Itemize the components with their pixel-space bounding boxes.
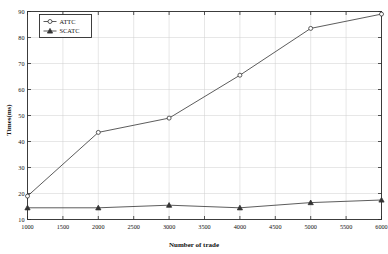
grid-lines (28, 12, 382, 220)
x-tick-label: 6000 (375, 223, 387, 230)
x-tick-label: 1000 (21, 223, 33, 230)
y-tick-label: 30 (18, 164, 24, 171)
x-axis-title: Number of trade (169, 241, 219, 249)
data-point-marker (96, 130, 100, 134)
data-point-marker (309, 26, 313, 30)
y-tick-label: 70 (18, 60, 24, 67)
y-tick-label: 60 (18, 86, 24, 93)
x-tick-label: 4500 (269, 223, 281, 230)
data-point-marker (238, 73, 242, 77)
x-tick-label: 1500 (57, 223, 69, 230)
y-tick-label: 20 (18, 190, 24, 197)
x-tick-label: 4000 (234, 223, 246, 230)
y-tick-label: 40 (18, 138, 24, 145)
data-point-marker (167, 116, 171, 120)
x-tick-label: 2000 (92, 223, 104, 230)
chart-legend: ATTCSCATC (40, 15, 92, 38)
y-tick-label: 80 (18, 34, 24, 41)
legend-label-scatc: SCATC (60, 27, 80, 34)
legend-label-attc: ATTC (60, 18, 76, 25)
y-tick-label: 50 (18, 112, 24, 119)
x-tick-label: 5000 (305, 223, 317, 230)
y-tick-label: 10 (18, 216, 24, 223)
data-point-marker (48, 20, 52, 24)
x-tick-label: 5500 (340, 223, 352, 230)
data-point-marker (380, 12, 384, 16)
x-tick-label: 3500 (198, 223, 210, 230)
line-chart: 1000150020002500300035004000450050005500… (0, 0, 388, 254)
y-axis-title: Times(ms) (5, 104, 13, 136)
x-tick-label: 3000 (163, 223, 175, 230)
y-axis-ticks: 102030405060708090 (18, 8, 381, 223)
chart-figure: 1000150020002500300035004000450050005500… (0, 0, 388, 254)
data-point-marker (26, 194, 30, 198)
x-tick-label: 2500 (128, 223, 140, 230)
y-tick-label: 90 (18, 8, 24, 15)
